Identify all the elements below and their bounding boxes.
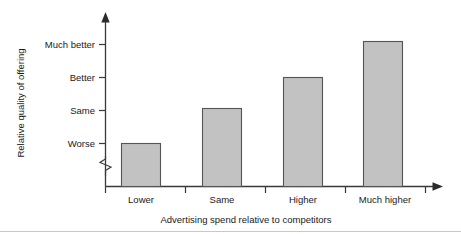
- bar-same: [203, 109, 242, 187]
- bar-higher: [284, 78, 323, 187]
- x-axis-arrow-right-icon: [433, 182, 444, 190]
- chart-figure: Much better Better Same Worse Relative q…: [0, 0, 461, 234]
- y-tick-label-better: Better: [70, 72, 95, 83]
- bar-much-higher: [364, 42, 403, 187]
- y-tick-label-much-better: Much better: [45, 39, 95, 50]
- bar-chart-canvas: Much better Better Same Worse Relative q…: [0, 0, 461, 234]
- bar-lower: [122, 144, 161, 187]
- y-axis-title: Relative quality of offering: [15, 48, 26, 157]
- x-category-labels: Lower Same Higher Much higher: [128, 194, 411, 205]
- x-category-label-much-higher: Much higher: [359, 194, 411, 205]
- y-axis-group: Much better Better Same Worse: [45, 12, 111, 187]
- x-category-label-same: Same: [210, 194, 235, 205]
- y-tick-label-same: Same: [70, 105, 95, 116]
- bar-series-relative-quality: [122, 42, 403, 187]
- x-axis-title: Advertising spend relative to competitor…: [160, 214, 331, 225]
- x-category-label-lower: Lower: [128, 194, 154, 205]
- x-category-label-higher: Higher: [289, 194, 317, 205]
- y-axis-arrow-up-icon: [101, 12, 109, 23]
- y-tick-label-worse: Worse: [68, 138, 95, 149]
